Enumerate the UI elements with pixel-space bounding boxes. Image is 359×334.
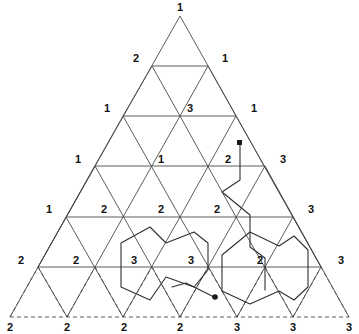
vertex-label: 1 <box>251 102 257 114</box>
vertex-label: 3 <box>234 321 240 333</box>
vertex-label: 3 <box>188 254 194 266</box>
vertex-label: 1 <box>177 1 183 13</box>
vertex-label: 2 <box>64 321 70 333</box>
grid-diag-down-7 <box>123 66 152 116</box>
vertex-label: 3 <box>280 153 286 165</box>
vertex-label: 3 <box>187 102 193 114</box>
vertex-label: 2 <box>18 254 24 266</box>
grid-bottom-diag-up-3 <box>123 267 152 317</box>
open-path-right <box>222 143 265 290</box>
sperner-walk-paths <box>121 143 308 304</box>
vertex-label: 1 <box>222 52 228 64</box>
vertex-label: 2 <box>158 203 164 215</box>
grid-diag-down-1 <box>180 66 208 116</box>
triangulation-grid-solid <box>10 16 349 317</box>
grid-diag-down-3 <box>180 166 265 317</box>
grid-diag-up-7 <box>208 66 236 116</box>
triangulation-grid-dashed <box>10 267 349 317</box>
vertex-label: 2 <box>225 153 231 165</box>
vertex-label: 2 <box>7 321 13 333</box>
grid-diag-up-1 <box>152 66 180 116</box>
vertex-label: 2 <box>214 203 220 215</box>
sperner-triangulation-figure: 1211311123122232233232222333 <box>0 0 359 334</box>
vertex-label: 2 <box>177 321 183 333</box>
vertex-label: 2 <box>133 52 139 64</box>
vertex-label: 3 <box>346 321 352 333</box>
vertex-label: 1 <box>46 203 52 215</box>
grid-bottom-diag-down-1 <box>38 267 67 317</box>
vertex-label: 1 <box>104 102 110 114</box>
vertex-label: 3 <box>290 321 296 333</box>
vertex-label: 3 <box>338 254 344 266</box>
vertex-label: 3 <box>131 254 137 266</box>
vertex-label: 3 <box>308 203 314 215</box>
vertex-label: 2 <box>101 203 107 215</box>
vertex-label: 1 <box>75 153 81 165</box>
lower-path-end-dot <box>212 294 218 300</box>
vertex-label: 2 <box>73 254 79 266</box>
triangulation-canvas: 1211311123122232233232222333 <box>0 0 359 334</box>
vertex-label: 1 <box>158 153 164 165</box>
upper-path-start-dot <box>237 140 242 145</box>
open-path-lower <box>172 283 214 297</box>
grid-diag-down-12 <box>38 217 66 267</box>
vertex-label: 2 <box>121 321 127 333</box>
grid-diag-up-12 <box>293 217 321 267</box>
vertex-label: 2 <box>257 254 263 266</box>
vertex-label-group: 1211311123122232233232222333 <box>7 1 352 333</box>
